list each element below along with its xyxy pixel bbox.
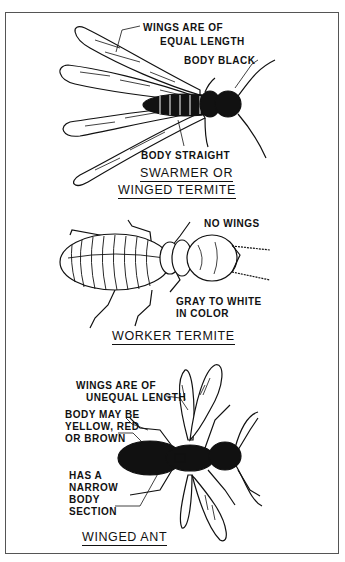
label-wings-unequal-line2: UNEQUAL LENGTH [86,392,186,403]
label-body-black: BODY BLACK [184,55,255,66]
label-body-color-line3: OR BROWN [65,433,126,444]
label-wings-unequal-line1: WINGS ARE OF [76,380,156,391]
label-wings-equal-line2: EQUAL LENGTH [160,36,245,47]
title-swarmer-line1: SWARMER OR [140,166,233,182]
label-body-color-line1: BODY MAY BE [65,409,140,420]
title-swarmer-line2: WINGED TERMITE [118,183,236,199]
label-narrow-body-line1: HAS A [69,470,102,481]
label-no-wings: NO WINGS [204,218,260,229]
label-wings-equal-line1: WINGS ARE OF [143,22,223,33]
label-gray-white-line1: GRAY TO WHITE [176,296,262,307]
label-gray-white-line2: IN COLOR [176,308,229,319]
label-narrow-body-line3: BODY [69,494,100,505]
label-narrow-body-line4: SECTION [69,506,117,517]
worker-termite-drawing [60,220,270,328]
swarmer-termite-drawing [60,26,275,185]
label-body-color-line2: YELLOW, RED [65,421,139,432]
title-worker-termite: WORKER TERMITE [112,329,235,345]
title-winged-ant: WINGED ANT [82,530,167,546]
insect-illustrations [0,0,345,562]
label-narrow-body-line2: NARROW [69,482,118,493]
label-body-straight: BODY STRAIGHT [141,150,230,161]
